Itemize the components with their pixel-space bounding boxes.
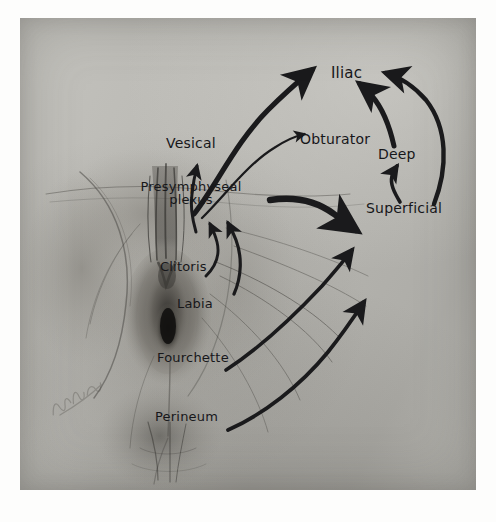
node-label-vesical: Vesical — [166, 136, 216, 150]
photograph-print: Iliac Vesical Obturator Deep Superficial… — [20, 18, 476, 490]
figure-page: Iliac Vesical Obturator Deep Superficial… — [0, 0, 496, 522]
node-label-superficial: Superficial — [366, 201, 442, 215]
node-label-perineum: Perineum — [155, 410, 218, 423]
node-label-iliac: Iliac — [331, 66, 362, 81]
node-label-fourchette: Fourchette — [157, 351, 229, 364]
node-label-presymphyseal-plexus: Presymphysealplexus — [131, 180, 251, 206]
flow-clitoris-to-presymphyseal — [206, 224, 218, 276]
flow-fourchette-to-superficial — [226, 250, 352, 370]
flow-labia-to-presymphyseal — [228, 223, 240, 294]
node-label-clitoris: Clitoris — [160, 260, 207, 273]
flow-superficial-to-deep — [391, 166, 400, 202]
node-label-obturator: Obturator — [300, 132, 370, 146]
node-label-deep: Deep — [378, 147, 416, 161]
lymphatic-flow-arrows — [20, 18, 476, 490]
node-label-labia: Labia — [177, 297, 213, 310]
flow-perineum-to-superficial — [228, 302, 364, 430]
flow-presymphyseal-to-superficial — [270, 199, 356, 230]
